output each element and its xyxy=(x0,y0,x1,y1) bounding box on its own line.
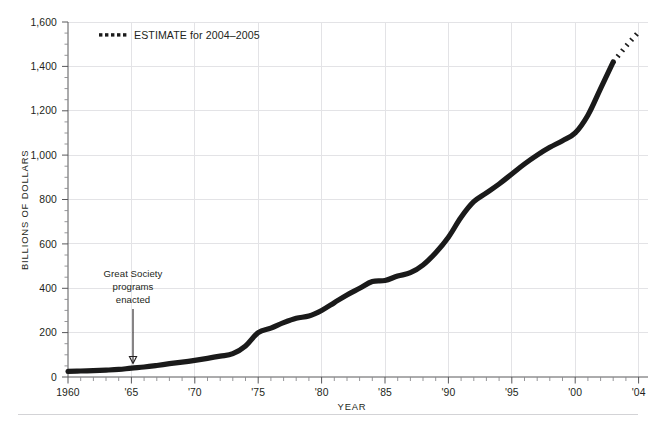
annotation-line-1: Great Society xyxy=(104,268,163,279)
legend: ESTIMATE for 2004–2005 xyxy=(99,29,260,41)
x-tick-label: '80 xyxy=(315,387,329,398)
x-tick-label: 1960 xyxy=(56,387,80,398)
x-tick-label: '00 xyxy=(568,387,582,398)
y-tick-label: 0 xyxy=(51,372,57,383)
x-axis-minor-ticks xyxy=(81,377,626,381)
horizontal-gridlines xyxy=(68,22,648,333)
y-axis-major-ticks xyxy=(62,22,68,377)
series-line-actual xyxy=(68,62,613,372)
x-tick-label: '70 xyxy=(188,387,202,398)
chart-plot: 1,600 1,400 1,200 1,000 800 600 400 200 … xyxy=(0,0,663,426)
figure-root: 1,600 1,400 1,200 1,000 800 600 400 200 … xyxy=(0,0,663,426)
annotation-line-3: enacted xyxy=(116,294,151,305)
x-tick-label: '75 xyxy=(251,387,265,398)
annotation-line-2: programs xyxy=(113,281,154,292)
x-tick-label: '95 xyxy=(505,387,519,398)
y-axis-title: BILLIONS OF DOLLARS xyxy=(19,150,30,270)
y-axis-tick-labels: 1,600 1,400 1,200 1,000 800 600 400 200 … xyxy=(30,17,57,383)
x-tick-label: '90 xyxy=(441,387,455,398)
y-tick-label: 1,400 xyxy=(30,61,57,72)
x-tick-label: '85 xyxy=(378,387,392,398)
x-axis-tick-labels: 1960 '65 '70 '75 '80 '85 '90 '95 '00 '04 xyxy=(56,387,645,398)
series-line-estimate xyxy=(613,32,638,62)
annotation-down-arrow-icon xyxy=(129,309,136,364)
y-tick-label: 1,600 xyxy=(30,17,57,28)
y-tick-label: 600 xyxy=(39,239,57,250)
y-tick-label: 400 xyxy=(39,283,57,294)
x-axis-major-ticks xyxy=(68,377,639,384)
y-tick-label: 1,000 xyxy=(30,150,57,161)
y-tick-label: 800 xyxy=(39,194,57,205)
annotation-great-society: Great Society programs enacted xyxy=(104,268,163,364)
y-tick-label: 1,200 xyxy=(30,105,57,116)
y-tick-label: 200 xyxy=(39,327,57,338)
x-axis-title: YEAR xyxy=(338,401,367,412)
x-tick-label: '65 xyxy=(124,387,138,398)
bottom-divider-rule xyxy=(18,414,638,415)
x-tick-label: '04 xyxy=(632,387,646,398)
legend-label: ESTIMATE for 2004–2005 xyxy=(134,29,260,41)
legend-marker-dotted-line-icon xyxy=(99,33,126,36)
